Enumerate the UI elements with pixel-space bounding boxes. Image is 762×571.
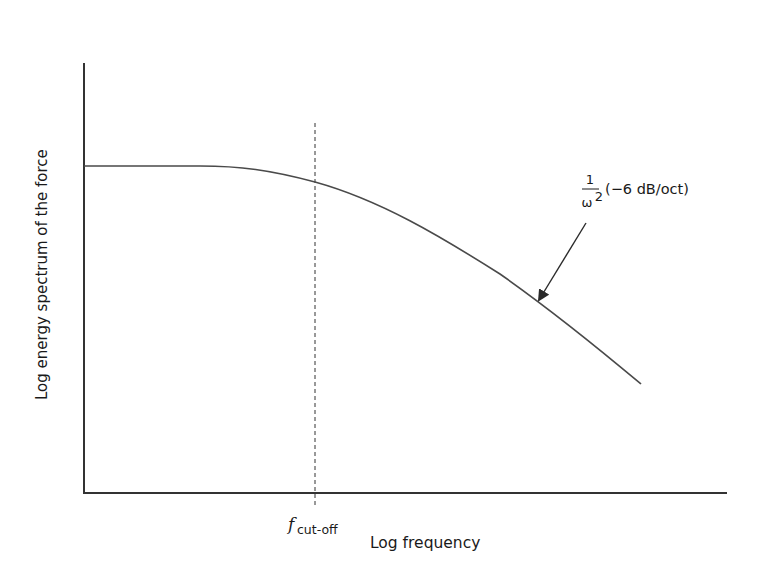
spectrum-curve [84,166,641,384]
chart-svg: 1 ω 2 (−6 dB/oct) f cut-off Log frequenc… [0,0,762,571]
x-axis-label: Log frequency [370,534,480,552]
chart-figure: 1 ω 2 (−6 dB/oct) f cut-off Log frequenc… [0,0,762,571]
slope-text: (−6 dB/oct) [605,181,689,197]
slope-annotation-arrow [539,223,586,300]
cutoff-label-main: f [286,514,297,534]
cutoff-label: f cut-off [286,514,338,537]
cutoff-label-sub: cut-off [297,522,338,537]
slope-annotation: 1 ω 2 (−6 dB/oct) [582,172,689,210]
slope-power: 2 [595,189,603,204]
slope-denominator: ω [582,195,593,210]
y-axis-label: Log energy spectrum of the force [33,149,51,400]
slope-numerator: 1 [586,172,594,187]
